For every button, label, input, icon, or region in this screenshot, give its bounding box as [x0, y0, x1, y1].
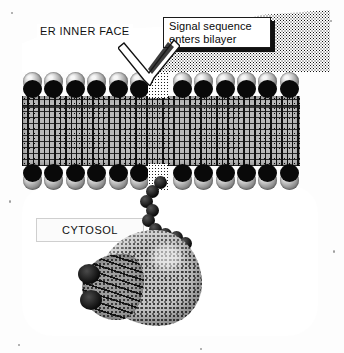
phospholipid-head-group	[215, 164, 236, 190]
er-inner-face-label: ER INNER FACE	[37, 24, 133, 38]
ribosome-knob	[78, 264, 100, 284]
phospholipid-head-group	[65, 164, 86, 190]
arrow-to-bilayer-gap-icon	[118, 40, 180, 86]
phospholipid-head-group	[65, 72, 86, 98]
phospholipid-head-group	[86, 164, 107, 190]
lipid-bilayer	[22, 72, 300, 190]
phospholipid-head-group	[193, 72, 214, 98]
page-speck	[11, 12, 13, 14]
page-speck	[200, 348, 202, 350]
page-speck	[330, 20, 332, 22]
figure-canvas: ER INNER FACE Signal sequence enters bil…	[0, 0, 344, 353]
phospholipid-head-group	[236, 72, 257, 98]
phospholipid-head-group	[22, 72, 43, 98]
phospholipid-head-group	[236, 164, 257, 190]
phospholipid-head-group	[257, 72, 278, 98]
page-speck	[333, 250, 335, 253]
page-speck	[18, 344, 20, 346]
page-speck	[9, 200, 11, 203]
phospholipid-head-group	[279, 72, 300, 98]
ribosome-highlight	[152, 244, 182, 270]
phospholipid-head-group	[86, 72, 107, 98]
phospholipid-head-group	[43, 164, 64, 190]
ribosome-knob	[80, 290, 102, 310]
bilayer-midline	[22, 105, 300, 108]
ribosome	[78, 228, 206, 336]
phospholipid-head-group	[43, 72, 64, 98]
phospholipid-head-group	[257, 164, 278, 190]
phospholipid-head-group	[279, 164, 300, 190]
phospholipid-head-group	[22, 164, 43, 190]
callout-line-1: Signal sequence	[169, 20, 265, 33]
phospholipid-head-group	[215, 72, 236, 98]
callout-line-2: enters bilayer	[169, 33, 265, 46]
